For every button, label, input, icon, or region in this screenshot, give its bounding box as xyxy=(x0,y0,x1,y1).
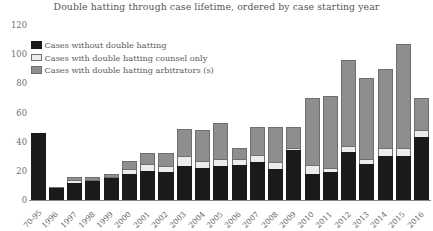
y-axis-tick-label: 0 xyxy=(3,195,27,205)
y-axis-tick-label: 120 xyxy=(3,20,27,30)
bar-segment-arbitrators xyxy=(305,98,320,165)
bar-segment-no-double-hatting xyxy=(213,166,228,200)
bar-segment-no-double-hatting xyxy=(378,156,393,200)
bar-segment-arbitrators xyxy=(359,78,374,160)
bar-segment-counsel-only xyxy=(396,148,411,157)
bar-segment-arbitrators xyxy=(396,44,411,148)
bar-segment-no-double-hatting xyxy=(341,152,356,200)
y-axis-tick-label: 40 xyxy=(3,137,27,147)
y-axis-tick-label: 60 xyxy=(3,108,27,118)
bar-column[interactable] xyxy=(305,25,320,200)
bar-segment-arbitrators xyxy=(140,153,155,163)
legend-swatch-icon xyxy=(31,41,42,49)
legend-label: Cases without double hatting xyxy=(45,40,167,50)
bar-segment-no-double-hatting xyxy=(85,181,100,200)
bar-segment-arbitrators xyxy=(323,96,338,167)
bar-segment-no-double-hatting xyxy=(31,133,46,200)
bar-segment-no-double-hatting xyxy=(359,164,374,200)
legend-item[interactable]: Cases without double hatting xyxy=(31,39,246,51)
bar-segment-no-double-hatting xyxy=(177,166,192,200)
bar-segment-arbitrators xyxy=(122,161,137,170)
bar-segment-no-double-hatting xyxy=(104,178,119,200)
y-axis-tick-label: 80 xyxy=(3,78,27,88)
legend-item[interactable]: Cases with double hatting counsel only xyxy=(31,52,246,64)
bar-column[interactable] xyxy=(323,25,338,200)
bar-segment-no-double-hatting xyxy=(158,172,173,200)
bar-segment-counsel-only xyxy=(250,155,265,162)
bar-segment-no-double-hatting xyxy=(268,169,283,200)
bar-segment-arbitrators xyxy=(232,148,247,160)
bar-segment-no-double-hatting xyxy=(396,156,411,200)
bar-segment-arbitrators xyxy=(250,127,265,155)
bar-segment-arbitrators xyxy=(195,130,210,161)
bar-segment-no-double-hatting xyxy=(195,168,210,200)
x-axis-tick: 2016 xyxy=(414,201,429,231)
legend-swatch-icon xyxy=(31,66,42,74)
bar-column[interactable] xyxy=(250,25,265,200)
bar-segment-no-double-hatting xyxy=(250,162,265,200)
bar-segment-arbitrators xyxy=(268,127,283,162)
legend-item[interactable]: Cases with double hatting arbitrators (s… xyxy=(31,64,246,76)
bar-segment-arbitrators xyxy=(378,69,393,148)
bar-segment-arbitrators xyxy=(177,129,192,157)
bar-column[interactable] xyxy=(268,25,283,200)
bar-column[interactable] xyxy=(414,25,429,200)
legend-label: Cases with double hatting counsel only xyxy=(45,53,208,63)
bar-segment-no-double-hatting xyxy=(414,137,429,200)
bar-segment-counsel-only xyxy=(177,156,192,166)
x-axis: 70-9519961997199819992000200120022003200… xyxy=(29,201,431,231)
legend-swatch-icon xyxy=(31,54,42,62)
y-axis: 020406080100120 xyxy=(0,0,27,231)
bar-segment-arbitrators xyxy=(341,60,356,146)
bar-segment-counsel-only xyxy=(414,130,429,137)
bar-column[interactable] xyxy=(396,25,411,200)
chart-container: Double hatting through case lifetime, or… xyxy=(0,0,433,231)
bar-segment-counsel-only xyxy=(195,161,210,168)
bar-segment-counsel-only xyxy=(378,148,393,157)
bar-segment-counsel-only xyxy=(268,162,283,169)
bar-column[interactable] xyxy=(341,25,356,200)
chart-title: Double hatting through case lifetime, or… xyxy=(0,1,433,12)
chart-legend: Cases without double hattingCases with d… xyxy=(31,39,246,77)
bar-segment-no-double-hatting xyxy=(67,183,82,201)
y-axis-tick-label: 100 xyxy=(3,49,27,59)
legend-label: Cases with double hatting arbitrators (s… xyxy=(45,65,214,75)
bar-segment-no-double-hatting xyxy=(122,174,137,200)
bar-segment-counsel-only xyxy=(140,164,155,171)
bar-segment-counsel-only xyxy=(213,159,228,166)
bar-segment-counsel-only xyxy=(305,165,320,174)
bar-column[interactable] xyxy=(359,25,374,200)
y-axis-tick-label: 20 xyxy=(3,166,27,176)
bar-segment-arbitrators xyxy=(158,153,173,166)
bar-segment-arbitrators xyxy=(286,127,301,147)
bar-segment-no-double-hatting xyxy=(286,150,301,200)
bar-segment-no-double-hatting xyxy=(323,172,338,200)
bar-segment-arbitrators xyxy=(414,98,429,130)
bar-segment-no-double-hatting xyxy=(305,174,320,200)
bar-segment-arbitrators xyxy=(213,123,228,159)
bar-segment-no-double-hatting xyxy=(140,171,155,200)
bar-segment-no-double-hatting xyxy=(49,188,64,200)
bar-column[interactable] xyxy=(286,25,301,200)
bar-column[interactable] xyxy=(378,25,393,200)
bar-segment-no-double-hatting xyxy=(232,165,247,200)
